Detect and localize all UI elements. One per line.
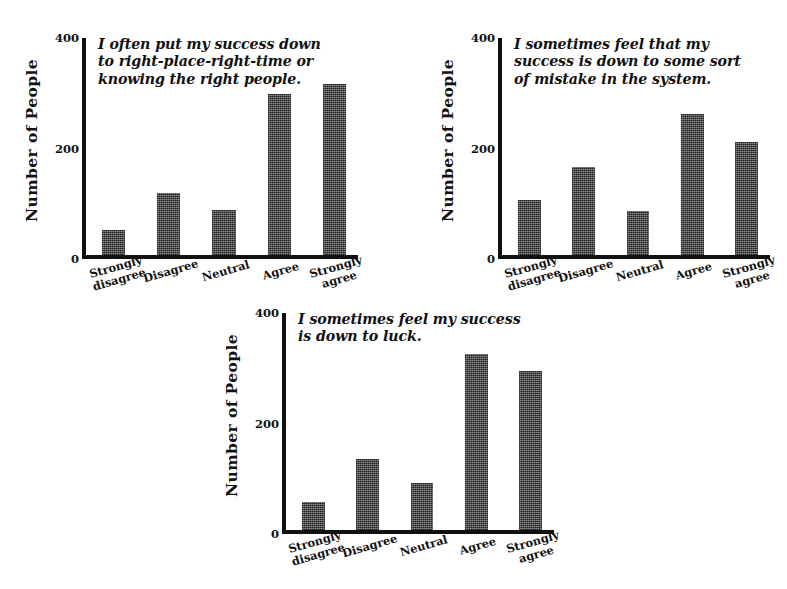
- bar: [157, 193, 180, 255]
- bar: [102, 230, 125, 255]
- y-axis-tick-label: 0: [487, 252, 495, 266]
- bar: [465, 354, 488, 530]
- bar: [302, 502, 325, 530]
- survey-charts-page: { "page": { "background": "#ffffff", "in…: [0, 0, 787, 589]
- y-axis-tick-label: 200: [255, 417, 279, 431]
- bar: [735, 142, 758, 255]
- x-axis-tick-labels: Strongly disagreeDisagreeNeutralAgreeStr…: [286, 530, 554, 584]
- bar: [518, 200, 541, 255]
- bar: [323, 84, 346, 255]
- x-axis-tick-labels: Strongly disagreeDisagreeNeutralAgreeStr…: [502, 255, 770, 309]
- bar: [411, 483, 434, 530]
- bar-group: [86, 38, 358, 255]
- y-axis-title: Number of People: [222, 313, 248, 518]
- bar: [519, 371, 542, 530]
- y-axis-tick-label: 0: [271, 527, 279, 541]
- bar: [572, 167, 595, 255]
- bar: [268, 94, 291, 255]
- bar-group: [502, 38, 770, 255]
- y-axis-title: Number of People: [438, 38, 464, 243]
- bar: [212, 210, 235, 255]
- y-axis-tick-label: 400: [255, 306, 279, 320]
- x-axis-tick-labels: Strongly disagreeDisagreeNeutralAgreeStr…: [86, 255, 358, 309]
- bar: [356, 459, 379, 530]
- bar-chart-mistake-in-the-system: Number of People I sometimes feel that m…: [438, 28, 783, 303]
- y-axis-tick-label: 200: [471, 142, 495, 156]
- y-axis-tick-label: 400: [55, 31, 79, 45]
- y-axis-title: Number of People: [22, 38, 48, 243]
- bar-chart-right-place-right-time: Number of People I often put my success …: [22, 28, 372, 303]
- bar: [681, 114, 704, 255]
- bar-group: [286, 313, 554, 530]
- plot-area: I sometimes feel that my success is down…: [498, 38, 770, 259]
- plot-area: I sometimes feel my success is down to l…: [282, 313, 554, 534]
- plot-area: I often put my success down to right-pla…: [82, 38, 358, 259]
- bar-chart-down-to-luck: Number of People I sometimes feel my suc…: [222, 303, 567, 578]
- bar: [627, 211, 650, 255]
- y-axis-tick-label: 400: [471, 31, 495, 45]
- y-axis-tick-label: 0: [71, 252, 79, 266]
- y-axis-tick-label: 200: [55, 142, 79, 156]
